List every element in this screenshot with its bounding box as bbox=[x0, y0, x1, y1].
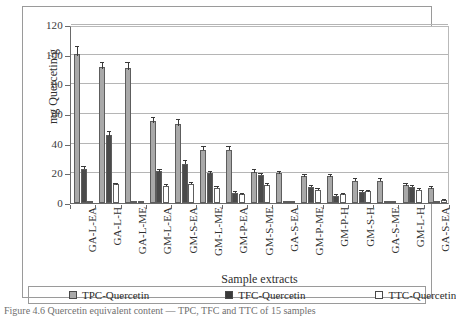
bar-ttc-GA-L-H bbox=[113, 184, 119, 203]
bar-tfc-GA-L-EA bbox=[81, 169, 87, 203]
error-bar-cap bbox=[176, 119, 180, 120]
error-bar-cap bbox=[208, 171, 212, 172]
bar-tpc-GA-L-ME bbox=[125, 68, 131, 203]
error-bar bbox=[178, 120, 179, 126]
x-axis-label-GA-S-ME: GA-S-ME bbox=[390, 207, 401, 269]
bar-ttc-GA-L-EA bbox=[87, 201, 93, 203]
bar-tpc-GM-P-EA bbox=[226, 150, 232, 203]
x-axis-tick bbox=[70, 205, 71, 209]
error-bar-cap bbox=[341, 193, 345, 194]
bars-layer bbox=[71, 27, 448, 203]
error-bar bbox=[166, 185, 167, 186]
bar-ttc-GM-P-ME bbox=[315, 190, 321, 203]
error-bar bbox=[362, 191, 363, 192]
error-bar-cap bbox=[252, 169, 256, 170]
bar-tpc-GA-S-EA bbox=[276, 173, 282, 203]
error-bar-cap bbox=[417, 188, 421, 189]
bar-tfc-GA-S-ME bbox=[384, 201, 390, 203]
bar-ttc-GA-S-ME bbox=[390, 201, 396, 203]
x-axis-tick bbox=[272, 205, 273, 209]
error-bar bbox=[185, 161, 186, 164]
x-axis-label-GM-P-H: GM-P-H bbox=[339, 207, 350, 269]
y-axis-tick bbox=[65, 145, 70, 146]
x-axis-tick bbox=[95, 205, 96, 209]
chart-frame: mg Quercetin/g 020406080100120 GA-L-EAGA… bbox=[22, 6, 432, 298]
error-bar-cap bbox=[366, 190, 370, 191]
error-bar-cap bbox=[226, 146, 230, 147]
error-bar-cap bbox=[359, 190, 363, 191]
error-bar bbox=[267, 184, 268, 185]
error-bar bbox=[159, 170, 160, 172]
error-bar-cap bbox=[334, 194, 338, 195]
error-bar-cap bbox=[309, 185, 313, 186]
y-axis-tick bbox=[65, 26, 70, 27]
error-bar bbox=[102, 63, 103, 69]
error-bar-cap bbox=[183, 160, 187, 161]
error-bar-cap bbox=[107, 131, 111, 132]
x-axis-label-GM-L-ME: GM-L-ME bbox=[213, 207, 224, 269]
error-bar bbox=[84, 167, 85, 169]
bar-tpc-GA-L-H bbox=[99, 67, 105, 203]
x-axis-label-GA-L-H: GA-L-H bbox=[112, 207, 123, 269]
x-axis-tick bbox=[171, 205, 172, 209]
error-bar bbox=[318, 189, 319, 190]
x-axis-label-GA-L-ME: GA-L-ME bbox=[137, 207, 148, 269]
y-axis-tick-label: 20 bbox=[23, 168, 63, 179]
x-axis-tick bbox=[424, 205, 425, 209]
bar-ttc-GM-L-H bbox=[416, 190, 422, 203]
plot-area bbox=[70, 26, 449, 204]
error-bar bbox=[311, 186, 312, 187]
error-bar-cap bbox=[100, 62, 104, 63]
x-axis-tick bbox=[449, 205, 450, 209]
error-bar-cap bbox=[81, 166, 85, 167]
x-axis-tick bbox=[222, 205, 223, 209]
legend-item-tpc[interactable]: TPC-Quercetin bbox=[69, 289, 149, 301]
error-bar bbox=[431, 187, 432, 189]
legend-item-tfc[interactable]: TFC-Quercetin bbox=[225, 289, 305, 301]
error-bar-cap bbox=[277, 171, 281, 172]
error-bar bbox=[210, 172, 211, 174]
legend-swatch-ttc bbox=[375, 291, 383, 299]
error-bar bbox=[235, 192, 236, 193]
legend-item-ttc[interactable]: TTC-Quercetin bbox=[375, 289, 456, 301]
x-axis-tick bbox=[323, 205, 324, 209]
error-bar bbox=[279, 172, 280, 174]
x-axis-label-GM-P-EA: GM-P-EA bbox=[238, 207, 249, 269]
x-axis-tick bbox=[398, 205, 399, 209]
legend-swatch-tpc bbox=[69, 291, 77, 299]
error-bar-cap bbox=[442, 199, 446, 200]
y-axis-tick bbox=[65, 115, 70, 116]
x-axis-label-GA-S-EA: GA-S-EA bbox=[289, 207, 300, 269]
x-axis-tick bbox=[196, 205, 197, 209]
error-bar bbox=[444, 200, 445, 201]
y-axis-tick-label: 40 bbox=[23, 139, 63, 150]
bar-ttc-GM-P-H bbox=[340, 194, 346, 203]
error-bar bbox=[368, 191, 369, 192]
bar-tpc-GM-S-ME bbox=[251, 172, 257, 203]
error-bar-cap bbox=[410, 185, 414, 186]
error-bar-cap bbox=[75, 46, 79, 47]
bar-ttc-GM-P-EA bbox=[239, 194, 245, 203]
bar-tpc-GA-S-ME bbox=[377, 181, 383, 203]
x-axis-label-GM-S-EA: GM-S-EA bbox=[188, 207, 199, 269]
error-bar bbox=[412, 186, 413, 187]
legend-swatch-tfc bbox=[225, 291, 233, 299]
bar-ttc-GM-L-EA bbox=[163, 186, 169, 203]
x-axis-tick bbox=[348, 205, 349, 209]
bar-tfc-GM-S-EA bbox=[182, 164, 188, 203]
error-bar bbox=[304, 175, 305, 177]
error-bar-cap bbox=[265, 183, 269, 184]
bar-tfc-GA-S-EA bbox=[283, 201, 289, 203]
bar-tpc-GA-L-EA bbox=[74, 54, 80, 203]
y-axis-tick-label: 80 bbox=[23, 79, 63, 90]
error-bar-cap bbox=[189, 182, 193, 183]
x-axis-label-GM-L-EA: GM-L-EA bbox=[162, 207, 173, 269]
bar-tfc-GM-P-EA bbox=[232, 193, 238, 203]
error-bar-cap bbox=[157, 169, 161, 170]
legend-label-tpc: TPC-Quercetin bbox=[82, 289, 149, 301]
bar-tpc-GM-P-ME bbox=[301, 176, 307, 203]
bar-ttc-GM-S-EA bbox=[188, 184, 194, 203]
error-bar bbox=[336, 195, 337, 196]
error-bar-cap bbox=[353, 178, 357, 179]
bar-tfc-GM-P-ME bbox=[308, 187, 314, 203]
